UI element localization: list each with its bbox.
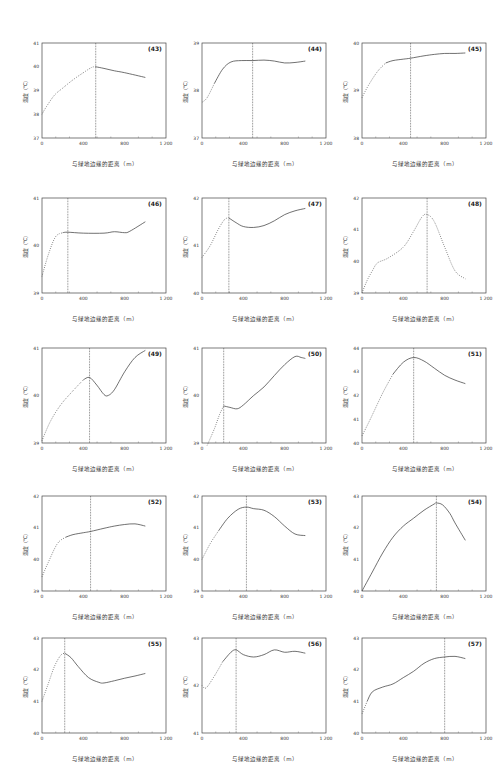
data-line-dotted [202, 83, 214, 102]
line-chart: 04008001 20040414243 [10, 630, 170, 755]
x-axis-label: 与绿地边缘的距离（m） [200, 315, 330, 323]
y-tick-label: 41 [33, 346, 39, 351]
y-tick-label: 40 [33, 243, 39, 248]
y-axis-label: 温度（℃） [21, 665, 28, 705]
y-axis-label: 温度（℃） [21, 375, 28, 415]
chart-panel: 04008001 20040414243(55)温度（℃）与绿地边缘的距离（m） [10, 630, 170, 767]
x-axis-label: 与绿地边缘的距离（m） [40, 465, 170, 473]
y-tick-label: 39 [193, 589, 199, 594]
x-tick-label: 0 [361, 446, 364, 451]
x-tick-label: 1 200 [480, 594, 493, 599]
y-tick-label: 42 [33, 494, 39, 499]
x-tick-label: 800 [280, 594, 289, 599]
x-axis-label: 与绿地边缘的距离（m） [360, 465, 490, 473]
y-axis-label: 温度（℃） [341, 665, 348, 705]
y-tick-label: 41 [33, 525, 39, 530]
line-chart: 04008001 200414243 [170, 630, 330, 755]
data-line [219, 507, 306, 536]
y-tick-label: 40 [353, 731, 359, 736]
data-line-dotted [207, 406, 224, 445]
line-chart: 04008001 2004041424344 [330, 340, 490, 465]
y-tick-label: 42 [193, 494, 199, 499]
panel-id-label: (51) [468, 350, 482, 357]
line-chart: 04008001 200394041 [170, 340, 330, 465]
y-tick-label: 43 [353, 369, 359, 374]
chart-panel: 04008001 200383940(45)温度（℃）与绿地边缘的距离（m） [330, 35, 490, 180]
line-chart: 04008001 20039404142 [10, 488, 170, 613]
y-axis-label: 温度（℃） [181, 665, 188, 705]
y-tick-label: 42 [353, 196, 359, 201]
x-tick-label: 800 [280, 141, 289, 146]
y-tick-label: 42 [353, 525, 359, 530]
plot-frame [362, 43, 486, 138]
x-tick-label: 800 [120, 296, 129, 301]
y-axis-label: 温度（℃） [341, 523, 348, 563]
y-tick-label: 40 [33, 731, 39, 736]
x-tick-label: 400 [79, 594, 88, 599]
x-tick-label: 0 [201, 736, 204, 741]
y-tick-label: 40 [193, 557, 199, 562]
x-tick-label: 400 [399, 594, 408, 599]
x-tick-label: 400 [239, 296, 248, 301]
y-tick-label: 40 [353, 589, 359, 594]
x-tick-label: 0 [41, 446, 44, 451]
x-tick-label: 0 [41, 736, 44, 741]
y-tick-label: 40 [193, 291, 199, 296]
y-tick-label: 43 [353, 494, 359, 499]
data-line-dotted [362, 214, 465, 293]
y-tick-label: 41 [193, 525, 199, 530]
panel-id-label: (53) [308, 498, 322, 505]
panel-id-label: (56) [308, 640, 322, 647]
x-tick-label: 800 [280, 736, 289, 741]
y-axis-label: 温度（℃） [181, 375, 188, 415]
y-axis-label: 温度（℃） [181, 523, 188, 563]
y-tick-label: 42 [353, 393, 359, 398]
y-tick-label: 41 [193, 243, 199, 248]
data-line [386, 53, 466, 63]
x-tick-label: 400 [399, 296, 408, 301]
plot-frame [42, 348, 166, 443]
x-tick-label: 1 200 [480, 736, 493, 741]
data-line [65, 653, 146, 683]
x-tick-label: 400 [399, 446, 408, 451]
panel-id-label: (44) [308, 45, 322, 52]
line-chart: 04008001 20040414243 [330, 488, 490, 613]
y-tick-label: 41 [353, 699, 359, 704]
x-tick-label: 0 [361, 141, 364, 146]
x-tick-label: 800 [120, 141, 129, 146]
x-tick-label: 1 200 [480, 446, 493, 451]
data-line [83, 350, 145, 396]
y-tick-label: 42 [193, 683, 199, 688]
y-axis-label: 温度（℃） [21, 523, 28, 563]
y-tick-label: 39 [193, 441, 199, 446]
y-tick-label: 39 [353, 291, 359, 296]
data-line-dotted [42, 67, 96, 115]
x-axis-label: 与绿地边缘的距离（m） [200, 755, 330, 763]
plot-frame [202, 198, 326, 293]
y-tick-label: 38 [33, 112, 39, 117]
y-axis-label: 温度（℃） [21, 70, 28, 110]
plot-frame [362, 348, 486, 443]
x-tick-label: 0 [201, 296, 204, 301]
panel-id-label: (49) [148, 350, 162, 357]
plot-frame [42, 638, 166, 733]
x-axis-label: 与绿地边缘的距离（m） [200, 465, 330, 473]
y-tick-label: 39 [33, 441, 39, 446]
data-line-dotted [42, 653, 65, 701]
x-axis-label: 与绿地边缘的距离（m） [360, 755, 490, 763]
y-tick-label: 41 [193, 346, 199, 351]
plot-frame [42, 496, 166, 591]
y-tick-label: 40 [33, 557, 39, 562]
data-line-dotted [42, 537, 66, 577]
chart-panel: 04008001 200414243(56)温度（℃）与绿地边缘的距离（m） [170, 630, 330, 767]
y-tick-label: 41 [33, 699, 39, 704]
line-chart: 04008001 200373839 [170, 35, 330, 160]
line-chart: 04008001 200404142 [170, 190, 330, 315]
chart-panel: 04008001 20039404142(52)温度（℃）与绿地边缘的距离（m） [10, 488, 170, 633]
y-tick-label: 40 [33, 64, 39, 69]
y-tick-label: 40 [193, 393, 199, 398]
panel-id-label: (52) [148, 498, 162, 505]
data-line [224, 356, 306, 409]
data-line [393, 357, 465, 383]
x-tick-label: 800 [120, 446, 129, 451]
